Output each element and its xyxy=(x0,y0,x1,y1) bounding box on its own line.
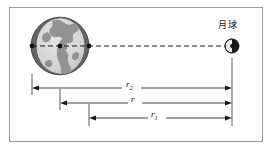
dimension-r1-label-subscript: 1 xyxy=(155,114,158,121)
dimension-r1-label: r1 xyxy=(151,110,158,121)
dimension-r1 xyxy=(89,112,232,124)
earth-left-edge-point xyxy=(30,44,35,49)
dimension-r xyxy=(60,97,232,109)
earth-right-edge-point xyxy=(87,44,92,49)
dimension-r2-arrow-left xyxy=(32,85,39,90)
dimension-r2-label-subscript: 2 xyxy=(130,84,133,91)
earth-center-point xyxy=(58,44,63,49)
dimension-r1-arrow-left xyxy=(89,115,96,120)
dimension-r-arrow-right xyxy=(225,100,232,105)
dimension-r-arrow-left xyxy=(60,100,67,105)
figure-canvas: 月球 r2 r r1 xyxy=(0,0,273,150)
dimension-r2-label: r2 xyxy=(126,80,133,91)
moon-label: 月球 xyxy=(218,21,237,30)
dimension-r2-arrow-right xyxy=(225,85,232,90)
dimension-r-label: r xyxy=(131,95,135,104)
dimension-r1-arrow-right xyxy=(225,115,232,120)
dimension-r-label-base: r xyxy=(131,94,135,104)
moon-center-point xyxy=(230,44,234,48)
